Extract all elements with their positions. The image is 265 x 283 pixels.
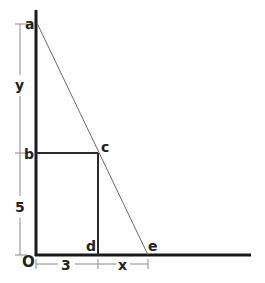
hypotenuse-ae — [37, 23, 148, 255]
label-dimension-3: 3 — [61, 257, 71, 273]
label-origin-o: O — [22, 253, 35, 271]
label-dimension-5: 5 — [15, 199, 25, 215]
label-point-a: a — [25, 16, 34, 32]
bottom-dimension-lines — [36, 259, 148, 269]
label-point-c: c — [101, 139, 109, 155]
label-point-b: b — [24, 146, 34, 162]
label-point-d: d — [86, 238, 96, 254]
label-dimension-y: y — [15, 77, 24, 93]
similar-triangles-diagram: a b c d e O y 5 3 x — [0, 0, 265, 283]
label-dimension-x: x — [118, 257, 127, 273]
label-point-e: e — [148, 238, 158, 254]
left-dimension-lines — [15, 24, 27, 255]
